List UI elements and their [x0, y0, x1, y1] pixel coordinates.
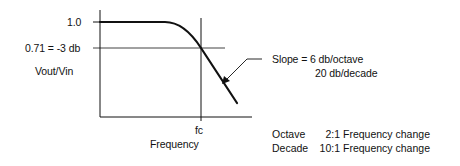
- y-tick-label-minus-3db: 0.71 = -3 db: [25, 42, 80, 54]
- legend-description: Frequency change: [343, 142, 430, 154]
- legend-term: Decade: [272, 142, 318, 154]
- slope-pointer: [226, 59, 262, 80]
- x-tick-label-fc: fc: [195, 124, 203, 136]
- y-tick-label-1-0: 1.0: [67, 16, 81, 28]
- slope-annotation-line2: 20 db/decade: [315, 67, 377, 79]
- response-curve: [100, 22, 237, 103]
- y-axis-label: Vout/Vin: [35, 65, 73, 77]
- legend-ratio: 10:1: [318, 142, 340, 154]
- legend-description: Frequency change: [343, 128, 430, 140]
- legend-term: Octave: [272, 128, 318, 140]
- slope-annotation-line1: Slope = 6 db/octave: [272, 53, 363, 65]
- x-axis-label: Frequency: [150, 138, 199, 150]
- legend-row-octave: Octave2:1Frequency change: [272, 128, 430, 140]
- legend-ratio: 2:1: [318, 128, 340, 140]
- legend-row-decade: Decade10:1Frequency change: [272, 142, 430, 154]
